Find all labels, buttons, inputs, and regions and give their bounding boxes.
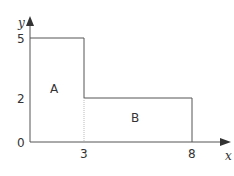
region-a-label: A [50,82,59,96]
region-b-label: B [131,111,139,125]
y-axis-arrow-icon [26,16,34,26]
step-function-diagram: y x 0 5 2 3 8 A B [0,0,234,176]
x-axis-arrow-icon [220,138,231,146]
x-tick-3: 3 [80,147,88,161]
x-tick-8: 8 [188,147,196,161]
origin-label: 0 [17,136,25,150]
y-tick-5: 5 [17,32,25,46]
y-axis-label: y [17,16,25,30]
y-tick-2: 2 [17,92,25,106]
x-axis-label: x [225,149,232,163]
